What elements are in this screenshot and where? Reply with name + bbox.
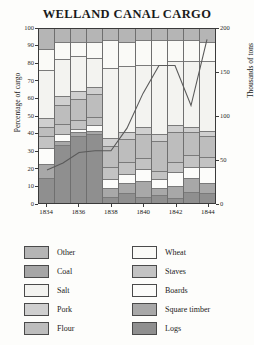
y-tick-right-mark bbox=[216, 72, 219, 73]
legend-swatch bbox=[24, 303, 49, 316]
segment-logs bbox=[136, 198, 151, 203]
x-tick-1834 bbox=[46, 204, 47, 207]
x-tick-label-1834: 1834 bbox=[39, 208, 53, 215]
legend-label: Salt bbox=[57, 286, 69, 295]
legend-label: Staves bbox=[165, 267, 186, 276]
segment-flour bbox=[168, 133, 183, 163]
segment-pork bbox=[39, 119, 54, 128]
y-tick-left-label: 30 bbox=[28, 148, 35, 155]
segment-pork bbox=[152, 135, 167, 142]
x-tick-1838 bbox=[111, 204, 112, 207]
bar-1840 bbox=[136, 29, 152, 203]
bar-1842 bbox=[168, 29, 184, 203]
segment-other bbox=[184, 29, 199, 41]
legend-label: Pork bbox=[57, 305, 72, 314]
segment-wheat bbox=[103, 41, 118, 69]
segment-wheat bbox=[200, 43, 215, 62]
segment-boards bbox=[103, 180, 118, 189]
segment-square-timber bbox=[103, 189, 118, 198]
segment-wheat bbox=[168, 41, 183, 62]
bar-1843 bbox=[184, 29, 200, 203]
legend-item-flour[interactable]: Flour bbox=[24, 319, 126, 338]
segment-logs bbox=[39, 179, 54, 203]
bar-1844 bbox=[200, 29, 215, 203]
segment-salt bbox=[168, 62, 183, 126]
segment-staves bbox=[136, 159, 151, 169]
y-tick-left-label: 10 bbox=[28, 183, 35, 190]
y-tick-right-mark bbox=[216, 28, 219, 29]
segment-wheat bbox=[55, 43, 70, 60]
segment-flour bbox=[152, 142, 167, 172]
segment-boards bbox=[39, 149, 54, 165]
x-tick-label-1836: 1836 bbox=[72, 208, 86, 215]
segment-flour bbox=[200, 137, 215, 158]
segment-wheat bbox=[87, 43, 102, 59]
legend-label: Flour bbox=[57, 324, 74, 333]
legend-swatch bbox=[24, 265, 49, 278]
plot-frame bbox=[38, 28, 216, 204]
legend-label: Square timber bbox=[165, 305, 210, 314]
segment-logs bbox=[87, 135, 102, 203]
segment-wheat bbox=[136, 41, 151, 65]
segment-flour bbox=[39, 128, 54, 137]
legend-item-logs[interactable]: Logs bbox=[132, 319, 234, 338]
legend-item-square-timber[interactable]: Square timber bbox=[132, 300, 234, 319]
segment-flour bbox=[184, 133, 199, 156]
segment-boards bbox=[184, 168, 199, 178]
legend-item-boards[interactable]: Boards bbox=[132, 281, 234, 300]
y-tick-right-label: 100 bbox=[220, 113, 230, 120]
legend-item-pork[interactable]: Pork bbox=[24, 300, 126, 319]
legend-swatch bbox=[132, 284, 157, 297]
legend-item-coal[interactable]: Coal bbox=[24, 262, 126, 281]
segment-staves bbox=[55, 125, 70, 135]
segment-logs bbox=[71, 137, 86, 203]
segment-other bbox=[200, 29, 215, 43]
y-tick-right-label: 150 bbox=[220, 69, 230, 76]
segment-salt bbox=[39, 71, 54, 120]
chart-legend: OtherWheatCoalStavesSaltBoardsPorkSquare… bbox=[24, 243, 234, 339]
y-tick-left-label: 50 bbox=[28, 113, 35, 120]
y-tick-left-label: 90 bbox=[28, 42, 35, 49]
legend-label: Coal bbox=[57, 267, 72, 276]
y-tick-left-label: 40 bbox=[28, 130, 35, 137]
segment-wheat bbox=[71, 43, 86, 57]
segment-flour bbox=[119, 140, 134, 163]
y-tick-right-mark bbox=[216, 116, 219, 117]
y-tick-right-label: 50 bbox=[220, 157, 227, 164]
segment-wheat bbox=[119, 43, 134, 67]
legend-swatch bbox=[24, 284, 49, 297]
legend-item-salt[interactable]: Salt bbox=[24, 281, 126, 300]
x-tick-label-1840: 1840 bbox=[136, 208, 150, 215]
bar-1835 bbox=[55, 29, 71, 203]
segment-wheat bbox=[184, 41, 199, 62]
legend-swatch bbox=[132, 265, 157, 278]
segment-salt bbox=[87, 59, 102, 89]
y-axis-right-title: Thousands of tons bbox=[246, 21, 255, 121]
plot-area bbox=[38, 28, 216, 204]
y-tick-right-label: 200 bbox=[220, 25, 230, 32]
legend-item-staves[interactable]: Staves bbox=[132, 262, 234, 281]
y-tick-left-label: 60 bbox=[28, 95, 35, 102]
segment-square-timber bbox=[168, 187, 183, 199]
legend-item-other[interactable]: Other bbox=[24, 243, 126, 262]
segment-pork bbox=[103, 139, 118, 148]
y-tick-left-label: 100 bbox=[24, 25, 34, 32]
x-tick-1844 bbox=[208, 204, 209, 207]
y-tick-right-mark bbox=[216, 204, 219, 205]
legend-label: Boards bbox=[165, 286, 188, 295]
segment-wheat bbox=[152, 41, 167, 65]
segment-other bbox=[71, 29, 86, 43]
segment-pork bbox=[71, 92, 86, 101]
segment-salt bbox=[119, 67, 134, 133]
legend-swatch bbox=[132, 246, 157, 259]
segment-staves bbox=[200, 158, 215, 168]
segment-salt bbox=[71, 57, 86, 92]
segment-square-timber bbox=[184, 179, 199, 193]
segment-salt bbox=[184, 62, 199, 128]
segment-flour bbox=[71, 100, 86, 121]
bar-1836 bbox=[71, 29, 87, 203]
legend-item-wheat[interactable]: Wheat bbox=[132, 243, 234, 262]
segment-flour bbox=[87, 95, 102, 118]
y-axis-left-title: Percentage of cargo bbox=[13, 53, 22, 153]
segment-logs bbox=[168, 199, 183, 202]
